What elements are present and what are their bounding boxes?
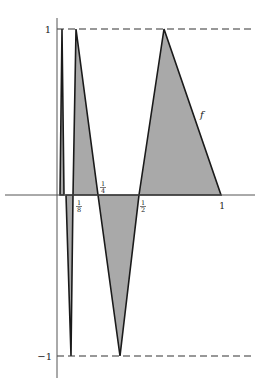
x-tick-1-2: 1 2 [140,199,146,214]
svg-text:8: 8 [77,206,81,214]
x-tick-1: 1 [219,201,225,211]
y-tick-neg1: −1 [37,351,52,362]
function-graph: 1 −1 1 8 1 4 1 2 1 f [0,0,262,390]
function-label: f [199,109,206,120]
x-tick-1-8: 1 8 [76,199,82,214]
svg-text:4: 4 [101,187,105,195]
shaded-area [60,29,221,356]
svg-text:2: 2 [141,206,145,214]
y-tick-1: 1 [45,24,51,35]
x-tick-1-4: 1 4 [100,180,106,195]
